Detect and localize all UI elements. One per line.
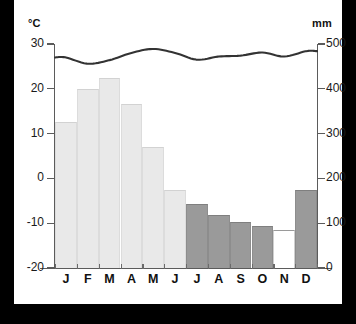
month-label: J (55, 272, 77, 286)
left-tick-label: 0 (14, 170, 44, 184)
right-tick-mark (318, 223, 325, 224)
precipitation-bar (99, 78, 121, 268)
right-tick-label: 200 (326, 170, 346, 184)
month-label: A (121, 272, 143, 286)
left-tick-mark (47, 267, 54, 268)
precipitation-bar (230, 222, 252, 268)
left-tick-label: 10 (14, 126, 44, 140)
left-tick-label: -20 (14, 260, 44, 274)
right-tick-mark (318, 88, 325, 89)
month-label: S (230, 272, 252, 286)
month-label: M (99, 272, 121, 286)
precipitation-bar (142, 147, 164, 268)
precipitation-bar (55, 122, 77, 268)
left-axis-unit-label: °C (28, 17, 41, 29)
precipitation-bar (186, 204, 208, 268)
x-tick-mark (99, 264, 100, 269)
x-tick-mark (317, 264, 318, 269)
left-tick-label: 20 (14, 81, 44, 95)
left-tick-label: 30 (14, 36, 44, 50)
precipitation-bar (164, 190, 186, 268)
chart-card: °C mm 3020100-10-20 5004003002001000 JFM… (14, 0, 342, 304)
x-tick-mark (273, 264, 274, 269)
precipitation-bar (295, 190, 317, 268)
month-label: J (164, 272, 186, 286)
climate-chart: °C mm 3020100-10-20 5004003002001000 JFM… (14, 0, 342, 304)
month-label: A (208, 272, 230, 286)
precipitation-bar (208, 215, 230, 268)
precipitation-bar (273, 230, 295, 268)
x-tick-mark (121, 264, 122, 269)
right-tick-label: 0 (326, 260, 333, 274)
x-tick-mark (252, 264, 253, 269)
x-tick-mark (55, 264, 56, 269)
month-label: D (295, 272, 317, 286)
left-tick-label: -10 (14, 215, 44, 229)
left-tick-mark (47, 178, 54, 179)
precipitation-bar (77, 89, 99, 268)
right-tick-mark (318, 178, 325, 179)
right-tick-label: 500 (326, 36, 346, 50)
right-tick-mark (318, 267, 325, 268)
left-tick-mark (47, 133, 54, 134)
temperature-line (55, 30, 318, 90)
month-label: O (252, 272, 274, 286)
left-tick-mark (47, 223, 54, 224)
x-tick-mark (142, 264, 143, 269)
month-label: N (273, 272, 295, 286)
month-labels: JFMAMJJASOND (55, 272, 317, 294)
precipitation-bar (121, 104, 143, 268)
right-tick-mark (318, 43, 325, 44)
month-label: F (77, 272, 99, 286)
right-axis-unit-label: mm (312, 17, 332, 29)
chart-screenshot: °C mm 3020100-10-20 5004003002001000 JFM… (0, 0, 356, 324)
right-tick-label: 100 (326, 215, 346, 229)
x-tick-mark (164, 264, 165, 269)
precipitation-bar (252, 226, 274, 268)
x-tick-mark (208, 264, 209, 269)
month-label: J (186, 272, 208, 286)
right-tick-mark (318, 133, 325, 134)
right-tick-label: 400 (326, 81, 346, 95)
left-tick-mark (47, 43, 54, 44)
x-tick-mark (230, 264, 231, 269)
x-tick-mark (77, 264, 78, 269)
right-tick-label: 300 (326, 126, 346, 140)
x-tick-mark (295, 264, 296, 269)
x-tick-mark (186, 264, 187, 269)
left-tick-mark (47, 88, 54, 89)
month-label: M (142, 272, 164, 286)
